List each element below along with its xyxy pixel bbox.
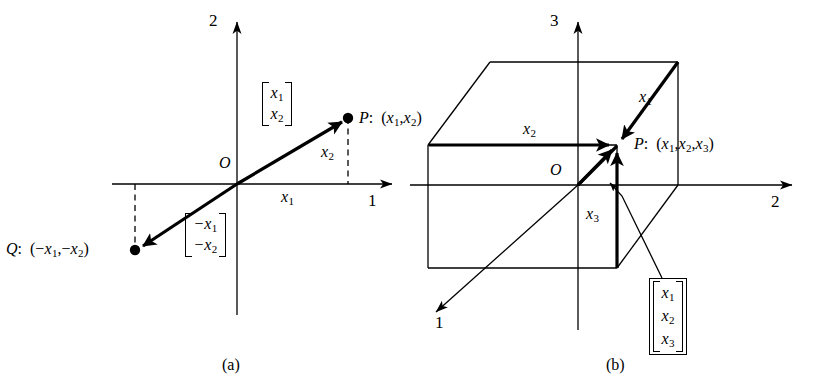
bracket-right xyxy=(219,213,226,257)
vector-row: −x1 xyxy=(194,214,218,235)
vector-row: x1 xyxy=(271,83,284,104)
vector-row: −x2 xyxy=(194,235,218,256)
vector-q-bracket-a: −x1 −x2 xyxy=(185,213,226,257)
panel-a: 2 1 O x1 x2 P: (x1,x2) Q: (−x1,−x2) x1 x… xyxy=(0,0,410,386)
x3-edge-label-b: x3 xyxy=(586,206,599,224)
point-q-label-a: Q: (−x1,−x2) xyxy=(6,241,89,259)
figure-root: 2 1 O x1 x2 P: (x1,x2) Q: (−x1,−x2) x1 x… xyxy=(0,0,818,386)
bracket-right xyxy=(285,82,292,126)
cube-edge-top-left-slant xyxy=(428,62,490,145)
axis-1-label: 1 xyxy=(435,314,444,331)
bracket-left xyxy=(653,281,660,352)
axis-2-label: 2 xyxy=(771,193,780,210)
x2-extent-label-a: x2 xyxy=(321,144,334,162)
origin-label-b: O xyxy=(550,162,562,178)
vector-p-bracket-b: x1 x2 x3 xyxy=(649,278,687,355)
point-p-dot xyxy=(343,113,353,123)
x2-edge-label-b: x2 xyxy=(523,121,536,139)
point-p-label-b: P: (x1,x2,x3) xyxy=(634,136,714,154)
bracket-rows: x1 x2 x3 xyxy=(660,281,676,352)
bracket-rows: x1 x2 xyxy=(269,82,285,126)
caption-a: (a) xyxy=(222,357,240,373)
origin-label-a: O xyxy=(219,155,231,171)
caption-b: (b) xyxy=(606,357,625,373)
bracket-left xyxy=(262,82,269,126)
vector-row: x2 xyxy=(662,305,675,328)
point-q-dot xyxy=(130,245,140,255)
vector-diagonal-op xyxy=(578,146,617,185)
axis-1-label: 1 xyxy=(368,192,377,209)
x1-edge-label-b: x1 xyxy=(639,89,652,107)
panel-b: 3 2 1 O x2 x1 x3 P: (x1,x2,x3) x1 x2 x3 … xyxy=(410,0,818,386)
bracket-left xyxy=(185,213,192,257)
cube-edge-bottom-right-slant xyxy=(617,185,678,268)
vector-row: x3 xyxy=(662,328,675,351)
panel-a-graphic xyxy=(0,0,410,386)
axis-2-label: 2 xyxy=(209,12,218,29)
x1-extent-label-a: x1 xyxy=(281,189,294,207)
vector-row: x1 xyxy=(662,282,675,305)
axis-3-label: 3 xyxy=(550,12,559,29)
axis-1-line xyxy=(436,185,578,312)
vector-p-bracket-a: x1 x2 xyxy=(262,82,292,126)
bracket-right xyxy=(676,281,683,352)
vector-row: x2 xyxy=(271,104,284,125)
panel-b-graphic xyxy=(410,0,818,386)
bracket-rows: −x1 −x2 xyxy=(192,213,219,257)
